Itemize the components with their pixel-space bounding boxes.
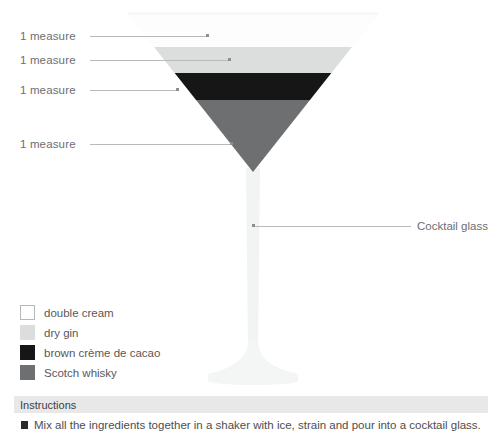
instructions-title: Instructions bbox=[20, 399, 76, 411]
measure-label: 1 measure bbox=[20, 54, 86, 66]
measure-label: 1 measure bbox=[20, 30, 86, 42]
legend-item-double-cream: double cream bbox=[20, 303, 160, 322]
instructions-step: Mix all the ingredients together in a sh… bbox=[14, 413, 488, 432]
instructions-step-text: Mix all the ingredients together in a sh… bbox=[34, 419, 481, 432]
glass-rim bbox=[128, 12, 378, 15]
legend: double cream dry gin brown crème de caca… bbox=[20, 303, 160, 383]
legend-swatch-dry-gin bbox=[20, 325, 35, 340]
glass-foot bbox=[208, 340, 298, 381]
cocktail-glass-callout-label: Cocktail glass bbox=[417, 220, 488, 232]
legend-item-scotch-whisky: Scotch whisky bbox=[20, 363, 160, 382]
measure-callout-double-cream: 1 measure bbox=[20, 29, 208, 43]
legend-label: Scotch whisky bbox=[44, 367, 117, 379]
measure-callout-brown-creme-de-cacao: 1 measure bbox=[20, 83, 178, 97]
legend-swatch-scotch-whisky bbox=[20, 365, 35, 380]
glass-stem bbox=[246, 168, 260, 352]
legend-swatch-brown-creme-de-cacao bbox=[20, 345, 35, 360]
leader-line bbox=[90, 144, 232, 145]
measure-callout-scotch-whisky: 1 measure bbox=[20, 137, 232, 151]
measure-callout-dry-gin: 1 measure bbox=[20, 53, 230, 67]
leader-line bbox=[253, 226, 411, 227]
legend-swatch-double-cream bbox=[20, 305, 35, 320]
cocktail-glass-callout: Cocktail glass bbox=[253, 219, 488, 233]
leader-line bbox=[90, 36, 208, 37]
legend-label: dry gin bbox=[44, 327, 79, 339]
measure-label: 1 measure bbox=[20, 84, 86, 96]
instructions-header: Instructions bbox=[14, 396, 488, 413]
leader-line bbox=[90, 90, 178, 91]
bullet-icon bbox=[21, 421, 28, 429]
legend-item-dry-gin: dry gin bbox=[20, 323, 160, 342]
legend-label: double cream bbox=[44, 307, 114, 319]
legend-label: brown crème de cacao bbox=[44, 347, 160, 359]
legend-item-brown-creme-de-cacao: brown crème de cacao bbox=[20, 343, 160, 362]
leader-line bbox=[90, 60, 230, 61]
glass-foot-base bbox=[208, 377, 298, 385]
instructions-panel: Instructions Mix all the ingredients tog… bbox=[14, 396, 488, 432]
measure-label: 1 measure bbox=[20, 138, 86, 150]
